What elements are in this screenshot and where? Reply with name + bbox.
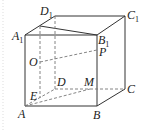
- segment-to-b1: [40, 26, 97, 35]
- label-c1: C1: [127, 8, 139, 24]
- label-m: M: [83, 75, 95, 89]
- edge-b-c: [97, 89, 125, 106]
- label-a1: A1: [11, 29, 23, 45]
- hidden-edges: [25, 16, 125, 106]
- label-p: P: [98, 45, 107, 59]
- segment-o-p: [40, 50, 97, 62]
- label-b: B: [93, 108, 101, 122]
- label-c: C: [127, 82, 136, 96]
- label-a: A: [17, 107, 26, 121]
- label-d1: D1: [39, 4, 53, 20]
- label-d: D: [56, 75, 66, 89]
- label-e: E: [29, 89, 38, 103]
- label-o: O: [29, 55, 38, 69]
- cube-diagram: D1 C1 A1 B1 P O D M E C A B: [0, 0, 146, 130]
